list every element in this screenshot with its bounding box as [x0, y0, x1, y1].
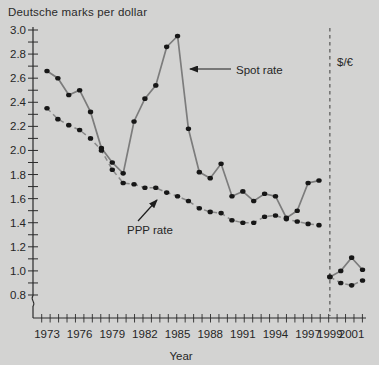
- x-tick-label: 1979: [99, 328, 125, 340]
- y-tick-label: 1.4: [10, 217, 27, 229]
- y-tick-label: 1.8: [10, 169, 26, 181]
- data-point: [229, 194, 234, 199]
- data-point: [44, 106, 49, 111]
- data-point: [305, 222, 310, 227]
- data-point: [77, 128, 82, 133]
- data-point: [327, 275, 332, 280]
- data-point: [153, 83, 158, 88]
- x-tick-label: 1982: [132, 328, 158, 340]
- data-point: [66, 123, 71, 128]
- y-tick-label: 2.8: [10, 48, 26, 60]
- data-point: [164, 45, 169, 50]
- data-point: [142, 185, 147, 190]
- ppp-rate-label: PPP rate: [127, 224, 173, 236]
- data-point: [186, 126, 191, 131]
- y-tick-label: 3.0: [10, 24, 26, 36]
- data-point: [110, 167, 115, 172]
- data-point: [305, 181, 310, 186]
- data-point: [66, 93, 71, 98]
- data-point: [131, 182, 136, 187]
- y-axis-break: [32, 296, 34, 306]
- x-tick-label: 1991: [230, 328, 256, 340]
- x-tick-label: 1994: [263, 328, 289, 340]
- data-point: [208, 210, 213, 215]
- y-tick-label: 2.2: [10, 120, 26, 132]
- data-point: [110, 160, 115, 165]
- data-point: [316, 178, 321, 183]
- data-point: [349, 255, 354, 260]
- data-point: [55, 76, 60, 81]
- data-point: [273, 213, 278, 218]
- data-point: [262, 192, 267, 197]
- y-tick-label: 1.0: [10, 265, 26, 277]
- data-point: [360, 278, 365, 283]
- x-tick-label: 1985: [165, 328, 191, 340]
- data-point: [88, 136, 93, 141]
- chart-plot-area: 3.02.82.62.42.22.01.81.61.41.21.00.81973…: [10, 24, 366, 340]
- data-point: [349, 283, 354, 288]
- data-point: [218, 161, 223, 166]
- data-point: [284, 217, 289, 222]
- dollar-per-euro-label: $/€: [337, 56, 354, 68]
- series-line-3: [330, 277, 363, 286]
- x-tick-label: 2001: [339, 328, 365, 340]
- data-point: [197, 170, 202, 175]
- y-tick-label: 1.6: [10, 193, 26, 205]
- data-point: [338, 281, 343, 286]
- data-point: [251, 220, 256, 225]
- x-tick-label: 1976: [67, 328, 93, 340]
- data-point: [120, 181, 125, 186]
- data-point: [240, 189, 245, 194]
- data-point: [197, 206, 202, 211]
- dm-per-dollar-chart: 3.02.82.62.42.22.01.81.61.41.21.00.81973…: [0, 0, 379, 365]
- data-point: [240, 220, 245, 225]
- data-point: [175, 34, 180, 39]
- x-axis-title: Year: [169, 350, 192, 362]
- y-tick-label: 0.8: [10, 289, 26, 301]
- data-point: [55, 117, 60, 122]
- data-point: [88, 110, 93, 115]
- y-tick-label: 1.2: [10, 241, 26, 253]
- scanned-figure-page: Deutsche marks per dollar 3.02.82.62.42.…: [0, 0, 379, 365]
- data-point: [186, 199, 191, 204]
- spot-rate-label: Spot rate: [236, 64, 283, 76]
- data-point: [338, 269, 343, 274]
- x-tick-label: 1973: [34, 328, 60, 340]
- data-point: [99, 148, 104, 153]
- data-point: [251, 199, 256, 204]
- data-point: [175, 194, 180, 199]
- series-line-1: [47, 108, 319, 225]
- data-point: [273, 194, 278, 199]
- y-tick-label: 2.6: [10, 72, 26, 84]
- x-tick-label: 1988: [197, 328, 223, 340]
- data-point: [295, 219, 300, 224]
- data-point: [77, 88, 82, 93]
- data-point: [131, 119, 136, 124]
- data-point: [164, 190, 169, 195]
- spot-rate-annotation: Spot rate: [190, 64, 283, 76]
- data-point: [44, 69, 49, 74]
- data-point: [316, 223, 321, 228]
- data-point: [208, 176, 213, 181]
- series-line-2: [330, 258, 363, 277]
- data-point: [229, 218, 234, 223]
- data-point: [360, 267, 365, 272]
- y-tick-label: 2.0: [10, 144, 26, 156]
- data-point: [153, 185, 158, 190]
- ppp-rate-annotation: PPP rate: [127, 200, 173, 236]
- ppp-rate-arrow: [138, 200, 157, 221]
- data-point: [218, 211, 223, 216]
- data-point: [142, 96, 147, 101]
- data-point: [262, 214, 267, 219]
- y-tick-label: 2.4: [10, 96, 27, 108]
- data-point: [295, 208, 300, 213]
- data-point: [120, 171, 125, 176]
